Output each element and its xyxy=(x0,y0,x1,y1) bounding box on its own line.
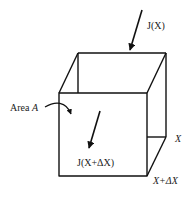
top-right-diagonal xyxy=(147,53,166,93)
top-left-diagonal xyxy=(59,53,78,93)
bottom-right-diagonal xyxy=(147,137,166,176)
flux-out-label: J(X+ΔX) xyxy=(77,157,114,169)
flux-out-arrow-icon xyxy=(89,111,100,148)
position-x-plus-dx-label: X+ΔX xyxy=(152,175,179,186)
flux-in-label: J(X) xyxy=(147,20,165,32)
area-pointer-arrow-icon xyxy=(45,103,71,114)
position-x-label: X xyxy=(174,133,182,144)
area-label: Area A xyxy=(10,102,39,113)
flux-in-arrow-icon xyxy=(130,10,142,50)
flux-box-diagram: J(X) J(X+ΔX) Area A X X+ΔX xyxy=(0,0,193,199)
